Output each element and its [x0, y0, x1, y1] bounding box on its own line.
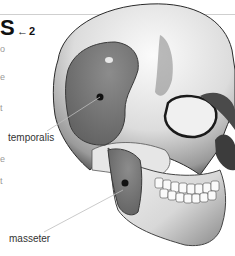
label-temporalis: temporalis [8, 132, 54, 144]
highlight [105, 57, 113, 63]
label-masseter: masseter [9, 233, 50, 245]
nasal-cavity [215, 135, 235, 171]
skull-illustration [0, 0, 235, 256]
masseter-leader-line [44, 190, 123, 232]
masseter-marker [122, 180, 129, 187]
